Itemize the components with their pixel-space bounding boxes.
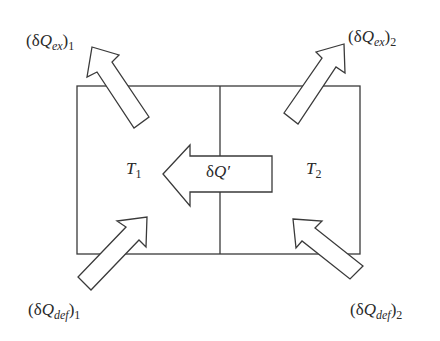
subscript: def — [54, 308, 69, 322]
open-paren: (δ — [28, 300, 42, 319]
index: 1 — [68, 39, 74, 53]
heat-deficit-2-arrow — [293, 219, 363, 279]
subscript: ex — [52, 39, 63, 53]
subscript: def — [376, 308, 391, 322]
heat-deficit-1-label: (δQdef)1 — [28, 301, 80, 318]
heat-symbol: Q — [362, 27, 374, 46]
open-paren: (δ — [26, 31, 40, 50]
prime-symbol: ′ — [226, 162, 230, 181]
temperature-left-label: T1 — [126, 160, 141, 177]
heat-exchange-2-arrow — [284, 44, 345, 124]
open-paren: (δ — [350, 300, 364, 319]
heat-exchange-1-label: (δQex)1 — [26, 32, 74, 49]
internal-heat-flow-label: δQ′ — [206, 163, 230, 180]
subscript: ex — [374, 35, 385, 49]
index: 2 — [390, 35, 396, 49]
index: 2 — [396, 308, 402, 322]
heat-symbol: Q — [42, 300, 54, 319]
heat-symbol: Q — [214, 162, 226, 181]
temperature-subscript: 1 — [135, 167, 141, 181]
index: 1 — [74, 308, 80, 322]
heat-symbol: Q — [364, 300, 376, 319]
heat-symbol: Q — [40, 31, 52, 50]
heat-exchange-1-arrow — [87, 47, 149, 128]
heat-deficit-2-label: (δQdef)2 — [350, 301, 402, 318]
temperature-right-label: T2 — [306, 160, 321, 177]
open-paren: (δ — [348, 27, 362, 46]
delta-symbol: δ — [206, 162, 214, 181]
temperature-subscript: 2 — [315, 167, 321, 181]
heat-exchange-2-label: (δQex)2 — [348, 28, 396, 45]
